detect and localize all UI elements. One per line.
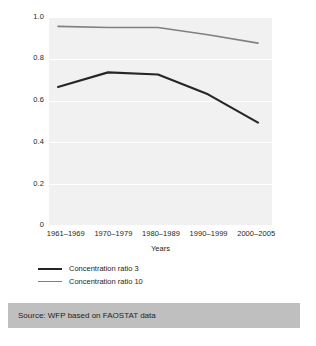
y-tick-label: 0.6 [4,96,44,104]
legend-item-concentration-ratio-3: Concentration ratio 3 [38,262,278,275]
source-text: Source: WFP based on FAOSTAT data [8,311,156,321]
line-concentration-ratio-3 [58,72,258,122]
source-band: Source: WFP based on FAOSTAT data [8,303,300,328]
x-axis-title: Years [49,244,272,253]
chart-legend: Concentration ratio 3 Concentration rati… [38,262,278,288]
y-tick-label: 0.8 [4,54,44,62]
series-plot [49,17,272,226]
plot-area [49,17,272,226]
legend-label: Concentration ratio 10 [69,277,143,286]
x-tick-label: 1970–1979 [90,229,138,238]
y-tick-label: 0 [4,221,44,229]
x-tick-label: 1990–1999 [185,229,233,238]
legend-line-swatch [38,268,62,270]
x-axis-ticks: 1961–1969 1970–1979 1980–1989 1990–1999 … [42,229,280,238]
x-tick-label: 1980–1989 [137,229,185,238]
y-tick-label: 0.2 [4,180,44,188]
y-tick-label: 1.0 [4,13,44,21]
x-tick-label: 2000–2005 [232,229,280,238]
legend-item-concentration-ratio-10: Concentration ratio 10 [38,275,278,288]
x-tick-label: 1961–1969 [42,229,90,238]
y-tick-label: 0.4 [4,138,44,146]
legend-line-swatch [38,281,62,282]
chart-figure: 1.0 0.8 0.6 0.4 0.2 0 1961–1969 1970–197… [0,0,316,346]
line-concentration-ratio-10 [58,26,258,43]
legend-label: Concentration ratio 3 [69,264,139,273]
